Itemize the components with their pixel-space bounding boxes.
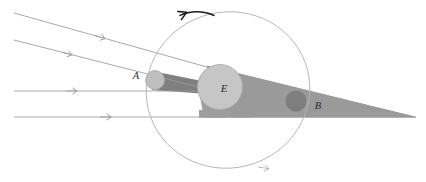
label-position-a: A [132,70,140,81]
eclipse-diagram: A E B [0,0,426,182]
moon-b-circle [286,91,307,112]
orbit-direction-arrow-top [180,12,214,16]
earth-group: E [198,65,243,110]
moon-position-a-group: A [132,70,165,90]
orbit-direction-arrow-bottom [258,167,268,169]
moon-a-circle [146,71,165,90]
label-earth: E [220,82,228,94]
sunlight-ray-1 [14,13,232,74]
label-position-b: B [315,100,322,111]
shadow-baseline-band [199,110,229,118]
shadow-cone-group [152,66,416,118]
sunlight-ray-2-arrow [62,52,71,54]
sunlight-ray-1-arrow [95,36,104,39]
diagram-canvas: A E B [0,0,426,182]
